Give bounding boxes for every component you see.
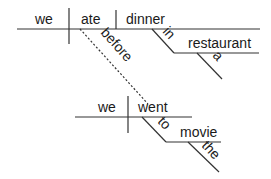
main-object: dinner: [126, 11, 165, 27]
main-verb: ate: [81, 11, 101, 27]
prep-to: to: [155, 113, 175, 133]
sub-verb: went: [137, 99, 168, 115]
connector-before: before: [98, 24, 137, 64]
sub-subject: we: [97, 99, 116, 115]
main-subject: we: [34, 11, 53, 27]
article-the: the: [199, 137, 224, 162]
sentence-diagram: we ate dinner in restaurant a before we …: [0, 0, 271, 179]
